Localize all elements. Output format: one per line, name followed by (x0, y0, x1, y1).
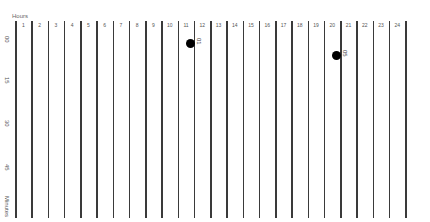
hour-gridline (389, 21, 391, 218)
hour-gridline (210, 21, 212, 218)
hour-gridline (178, 21, 180, 218)
hour-gridline (259, 21, 261, 218)
x-tick-label: 1 (17, 22, 31, 28)
hour-gridline (129, 21, 131, 218)
hour-gridline (308, 21, 310, 218)
hour-gridline (324, 21, 326, 218)
hour-gridline (161, 21, 163, 218)
x-tick-label: 10 (163, 22, 177, 28)
hour-gridline (194, 21, 196, 218)
x-tick-label: 5 (82, 22, 96, 28)
hour-gridline (80, 21, 82, 218)
x-tick-label: 9 (147, 22, 161, 28)
x-tick-label: 12 (195, 22, 209, 28)
hour-gridline (96, 21, 98, 218)
x-tick-label: 4 (65, 22, 79, 28)
x-tick-label: 19 (309, 22, 323, 28)
data-point-dot (332, 51, 341, 60)
hour-gridline (291, 21, 293, 218)
hour-gridline (64, 21, 66, 218)
x-tick-label: 6 (98, 22, 112, 28)
hour-gridline (356, 21, 358, 218)
hour-gridline (226, 21, 228, 218)
x-tick-label: 23 (374, 22, 388, 28)
hour-gridline (373, 21, 375, 218)
y-tick-label: 45 (4, 164, 10, 171)
x-tick-label: 21 (342, 22, 356, 28)
hour-gridline (243, 21, 245, 218)
x-tick-label: 16 (260, 22, 274, 28)
x-tick-label: 8 (130, 22, 144, 28)
x-tick-label: 2 (33, 22, 47, 28)
x-tick-label: 17 (277, 22, 291, 28)
hour-gridline (31, 21, 33, 218)
x-tick-label: 15 (244, 22, 258, 28)
x-tick-label: 7 (114, 22, 128, 28)
hour-gridline (48, 21, 50, 218)
x-tick-label: 24 (390, 22, 404, 28)
x-tick-label: 20 (325, 22, 339, 28)
data-point-label: 01 (196, 38, 202, 45)
x-tick-label: 13 (212, 22, 226, 28)
hour-gridline (405, 21, 407, 218)
x-tick-label: 18 (293, 22, 307, 28)
hour-minute-chart: Hours 1234567891011121314151617181920212… (0, 0, 430, 222)
hour-gridline (15, 21, 17, 218)
y-tick-label: 15 (4, 77, 10, 84)
hour-gridline (113, 21, 115, 218)
x-tick-label: 22 (358, 22, 372, 28)
data-point-label: 05 (342, 50, 348, 57)
y-axis-title: Minutes (4, 196, 10, 217)
y-tick-label: 30 (4, 120, 10, 127)
x-tick-label: 11 (179, 22, 193, 28)
data-point-dot (186, 39, 195, 48)
hour-gridline (275, 21, 277, 218)
y-tick-label: 00 (4, 36, 10, 43)
x-tick-label: 14 (228, 22, 242, 28)
hour-gridline (145, 21, 147, 218)
x-axis-title: Hours (12, 13, 28, 19)
x-tick-label: 3 (49, 22, 63, 28)
